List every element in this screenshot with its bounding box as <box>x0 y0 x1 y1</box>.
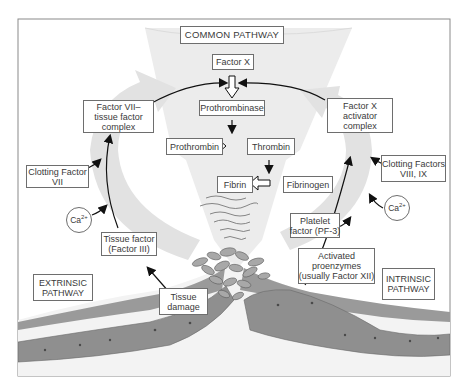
factor-vii-complex-box: Factor VII– tissue factor complex <box>83 100 154 133</box>
clotting-factors-viii-ix-box: Clotting Factors VIII, IX <box>381 155 446 182</box>
x-activator-line1: Factor X <box>343 101 377 111</box>
tissue-factor-line2: (Factor III) <box>108 244 150 254</box>
proenzymes-line3: (usually Factor XII) <box>299 271 375 281</box>
tissue-damage-box: Tissue damage <box>159 288 208 315</box>
activated-proenzymes-box: Activated proenzymes (usually Factor XII… <box>298 248 375 284</box>
tissue-damage-line2: damage <box>167 302 200 312</box>
factor-x-box: Factor X <box>212 54 254 70</box>
platelet-factor-box: Platelet factor (PF-3) <box>290 213 340 238</box>
calcium-intrinsic-circle: Ca2+ <box>384 195 410 221</box>
clotting-vii-line2: VII <box>52 177 63 187</box>
tissue-factor-line1: Tissue factor <box>103 234 154 244</box>
calcium-intrinsic-text: Ca2+ <box>388 203 406 213</box>
intrinsic-heading-line2: PATHWAY <box>387 284 429 294</box>
clotting-factor-vii-box: Clotting Factor VII <box>26 165 89 188</box>
x-activator-line3: complex <box>343 121 377 131</box>
tissue-factor-box: Tissue factor (Factor III) <box>101 232 157 256</box>
fibrin-text: Fibrin <box>224 180 247 190</box>
x-activator-line2: activator <box>343 111 377 121</box>
calcium-extrinsic-text: Ca2+ <box>70 215 88 225</box>
platelet-line1: Platelet <box>300 216 330 226</box>
proenzymes-line2: proenzymes <box>312 261 361 271</box>
coagulation-diagram: COMMON PATHWAY Factor X Prothrombinase P… <box>0 0 464 390</box>
prothrombin-box: Prothrombin <box>166 138 223 155</box>
vii-complex-line2: tissue factor <box>94 112 143 122</box>
prothrombinase-text: Prothrombinase <box>200 103 264 113</box>
vii-complex-line3: complex <box>102 122 136 132</box>
tissue-damage-line1: Tissue <box>170 292 196 302</box>
extrinsic-heading-line2: PATHWAY <box>42 288 84 298</box>
clotting-viii-ix-line2: VIII, IX <box>400 169 427 179</box>
intrinsic-pathway-heading: INTRINSIC PATHWAY <box>382 268 435 300</box>
thrombin-box: Thrombin <box>247 138 295 155</box>
common-pathway-heading-text: COMMON PATHWAY <box>185 30 279 40</box>
intrinsic-heading-line1: INTRINSIC <box>386 274 431 284</box>
proenzymes-line1: Activated <box>318 251 355 261</box>
factor-x-text: Factor X <box>216 57 250 67</box>
clotting-vii-line1: Clotting Factor <box>28 167 87 177</box>
factor-x-activator-complex-box: Factor X activator complex <box>327 98 393 133</box>
extrinsic-pathway-heading: EXTRINSIC PATHWAY <box>33 274 93 301</box>
prothrombin-text: Prothrombin <box>170 142 219 152</box>
vii-complex-line1: Factor VII– <box>96 102 140 112</box>
fibrin-box: Fibrin <box>217 176 253 193</box>
fibrinogen-box: Fibrinogen <box>283 176 333 193</box>
thrombin-text: Thrombin <box>252 142 290 152</box>
fibrinogen-text: Fibrinogen <box>287 180 330 190</box>
common-pathway-heading: COMMON PATHWAY <box>180 26 284 44</box>
clotting-viii-ix-line1: Clotting Factors <box>382 159 445 169</box>
prothrombinase-box: Prothrombinase <box>199 100 265 116</box>
platelet-line2: factor (PF-3) <box>290 226 341 236</box>
extrinsic-heading-line1: EXTRINSIC <box>39 278 87 288</box>
calcium-extrinsic-circle: Ca2+ <box>66 207 92 233</box>
